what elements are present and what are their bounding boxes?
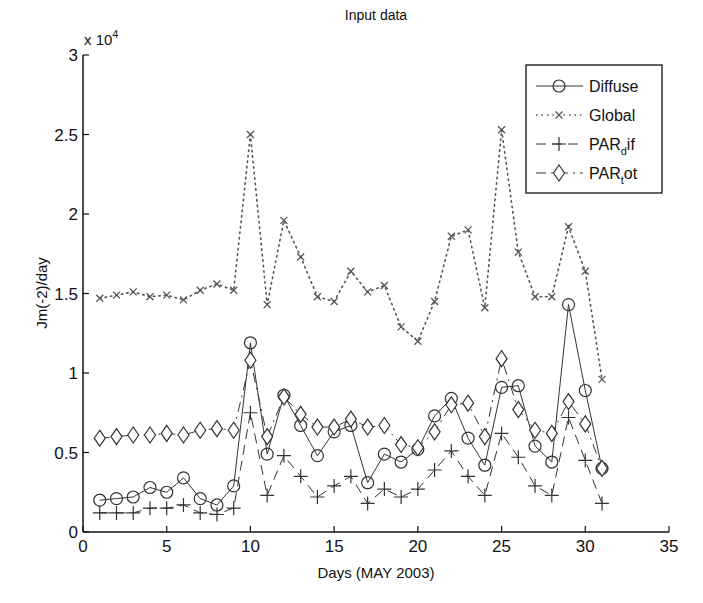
chart: Input data x 104 Jm(-2)/day Days (MAY 20… xyxy=(0,0,703,603)
y-tick-label: 3 xyxy=(69,46,78,65)
svg-text:Diffuse: Diffuse xyxy=(589,78,639,95)
y-axis-label: Jm(-2)/day xyxy=(33,257,50,329)
x-tick-label: 25 xyxy=(492,537,511,556)
x-tick-label: 10 xyxy=(241,537,260,556)
x-tick-label: 0 xyxy=(78,537,87,556)
y-tick-label: 2 xyxy=(69,205,78,224)
series-par-tot xyxy=(94,351,607,477)
y-tick-label: 1.5 xyxy=(54,285,78,304)
y-tick-label: 2.5 xyxy=(54,126,78,145)
y-tick-label: 0.5 xyxy=(54,444,78,463)
legend: DiffuseGlobalPARdifPARtot xyxy=(526,65,662,193)
x-axis-label: Days (MAY 2003) xyxy=(318,564,435,581)
x-tick-label: 15 xyxy=(325,537,344,556)
x-tick-label: 20 xyxy=(408,537,427,556)
svg-text:Global: Global xyxy=(589,107,635,124)
x-tick-label: 35 xyxy=(660,537,679,556)
y-multiplier: x 104 xyxy=(84,28,118,48)
x-tick-label: 5 xyxy=(162,537,171,556)
y-tick-label: 1 xyxy=(69,364,78,383)
x-tick-label: 30 xyxy=(576,537,595,556)
chart-title: Input data xyxy=(345,7,407,23)
y-tick-label: 0 xyxy=(69,523,78,542)
